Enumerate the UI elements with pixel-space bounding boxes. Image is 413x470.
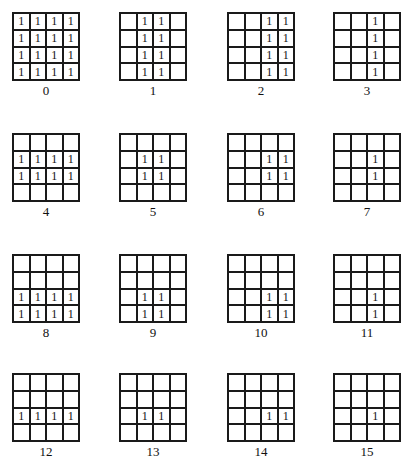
grid-cell: 1: [46, 168, 63, 185]
grid-cell: [228, 30, 245, 47]
grid-cell: [228, 134, 245, 151]
grid-cell: 1: [261, 305, 278, 322]
mask-panel-12: 111112: [12, 373, 82, 460]
grid-cell: [170, 47, 187, 64]
grid-cell: [153, 134, 170, 151]
grid-cell: [384, 134, 401, 151]
grid-cell: [46, 374, 63, 391]
grid-cell: [245, 184, 262, 201]
grid-cell: 1: [13, 289, 30, 306]
mask-label: 15: [333, 444, 401, 460]
mask-label: 0: [12, 83, 80, 99]
grid-cell: [384, 13, 401, 30]
grid-cell: [30, 374, 47, 391]
grid-cell: [334, 272, 351, 289]
grid-cell: 1: [367, 47, 384, 64]
grid-cell: 1: [137, 168, 154, 185]
grid-cell: [351, 408, 368, 425]
grid-cell: 1: [278, 151, 295, 168]
grid-cell: [245, 47, 262, 64]
grid-cell: [334, 289, 351, 306]
grid-cell: [245, 134, 262, 151]
mask-panel-0: 11111111111111110: [12, 12, 82, 99]
grid-cell: [384, 305, 401, 322]
grid-cell: [334, 408, 351, 425]
grid-cell: [13, 391, 30, 408]
grid-cell: [367, 391, 384, 408]
grid-cell: 1: [153, 151, 170, 168]
grid-cell: [228, 374, 245, 391]
grid-cell: [278, 272, 295, 289]
grid-cell: 1: [153, 63, 170, 80]
grid-cell: 1: [63, 408, 80, 425]
mask-panel-11: 1111: [333, 254, 403, 341]
grid-cell: [334, 30, 351, 47]
grid-cell: [153, 374, 170, 391]
grid-cell: 1: [13, 408, 30, 425]
mask-grid: 11: [119, 373, 187, 442]
grid-cell: 1: [367, 168, 384, 185]
mask-label: 12: [12, 444, 80, 460]
grid-cell: [367, 272, 384, 289]
mask-grid: 11111111: [119, 12, 187, 81]
mask-grid: 11: [333, 254, 401, 323]
grid-cell: [384, 184, 401, 201]
mask-panel-13: 1113: [119, 373, 189, 460]
grid-cell: [153, 424, 170, 441]
grid-cell: 1: [261, 47, 278, 64]
grid-cell: 1: [30, 168, 47, 185]
grid-cell: [170, 168, 187, 185]
grid-cell: [351, 47, 368, 64]
mask-panel-1: 111111111: [119, 12, 189, 99]
mask-panel-14: 1114: [227, 373, 297, 460]
grid-cell: 1: [46, 47, 63, 64]
grid-cell: 1: [261, 63, 278, 80]
grid-cell: 1: [261, 13, 278, 30]
grid-cell: [261, 374, 278, 391]
grid-cell: 1: [63, 305, 80, 322]
grid-cell: 1: [367, 30, 384, 47]
grid-cell: [261, 424, 278, 441]
grid-cell: [170, 391, 187, 408]
grid-cell: [351, 168, 368, 185]
grid-cell: [384, 47, 401, 64]
grid-cell: [261, 272, 278, 289]
mask-label: 5: [119, 204, 187, 220]
grid-cell: [278, 374, 295, 391]
mask-grid: 1111: [119, 133, 187, 202]
grid-cell: [13, 134, 30, 151]
grid-cell: [261, 184, 278, 201]
grid-cell: [170, 408, 187, 425]
grid-cell: [228, 272, 245, 289]
grid-cell: 1: [13, 30, 30, 47]
mask-label: 8: [12, 325, 80, 341]
grid-cell: 1: [153, 408, 170, 425]
grid-cell: [228, 168, 245, 185]
grid-cell: 1: [13, 13, 30, 30]
mask-grid: 1111: [227, 254, 295, 323]
grid-cell: [63, 374, 80, 391]
grid-cell: 1: [13, 305, 30, 322]
mask-panel-6: 11116: [227, 133, 297, 220]
grid-cell: [63, 391, 80, 408]
grid-cell: 1: [46, 63, 63, 80]
grid-cell: 1: [63, 151, 80, 168]
mask-label: 14: [227, 444, 295, 460]
grid-cell: 1: [30, 47, 47, 64]
grid-cell: [334, 305, 351, 322]
grid-cell: [245, 408, 262, 425]
grid-cell: [120, 305, 137, 322]
grid-cell: 1: [30, 63, 47, 80]
grid-cell: [245, 255, 262, 272]
grid-cell: [228, 151, 245, 168]
grid-cell: 1: [278, 305, 295, 322]
grid-cell: [46, 184, 63, 201]
grid-cell: [120, 374, 137, 391]
mask-grid: 1111: [119, 254, 187, 323]
grid-cell: 1: [137, 63, 154, 80]
mask-grid: 11: [227, 373, 295, 442]
grid-cell: [63, 424, 80, 441]
mask-panel-2: 111111112: [227, 12, 297, 99]
grid-cell: 1: [30, 408, 47, 425]
mask-panel-8: 111111118: [12, 254, 82, 341]
